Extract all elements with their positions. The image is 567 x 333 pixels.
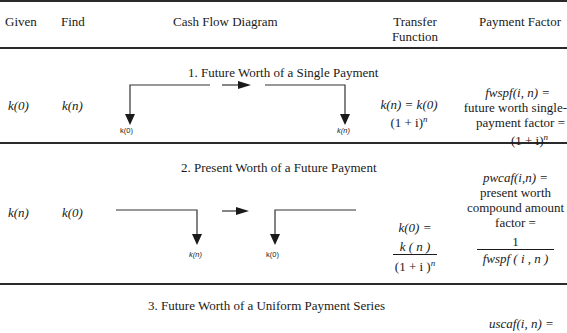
section-2-factor-line2: present worth (464, 185, 567, 200)
section-2-factor-line1: pwcaf(i,n) = (464, 170, 567, 185)
section-3-title: 3. Future Worth of a Uniform Payment Ser… (148, 298, 385, 313)
section-2-transfer-denominator: (1 + i )n (393, 254, 437, 274)
section-2-factor-line3: compound amount (464, 200, 567, 215)
section-2-diagram-label-left: k(n) (189, 250, 202, 259)
section-2-transfer-fraction: k ( n ) (1 + i )n (393, 239, 437, 274)
section-2-transfer-den-base: (1 + i ) (395, 259, 431, 274)
section-2-diagram-label-right: k(0) (266, 250, 279, 259)
section-2-cash-flow-diagram (0, 0, 567, 333)
section-2-factor-line4: factor = (464, 215, 567, 230)
section-2-transfer-function: k(0) = k ( n ) (1 + i )n (375, 220, 455, 274)
section-2-factor-numerator: 1 (477, 234, 555, 249)
section-2-transfer-numerator: k ( n ) (393, 239, 437, 254)
section-2-transfer-line1: k(0) = (375, 220, 455, 235)
section-2-payment-factor: pwcaf(i,n) = present worth compound amou… (464, 170, 567, 266)
section-2-transfer-exponent: n (431, 258, 436, 268)
section-2-factor-fraction: 1 fwspf ( i , n ) (477, 234, 555, 266)
section-3-factor-line1: uscaf(i, n) = (489, 316, 554, 331)
section-2-factor-denominator: fwspf ( i , n ) (477, 249, 555, 266)
